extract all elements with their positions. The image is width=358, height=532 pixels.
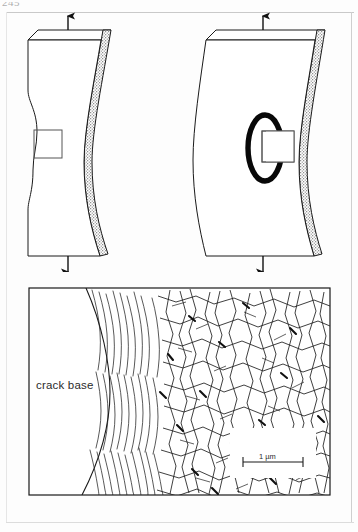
- figure-page: 245: [0, 0, 358, 532]
- specimen-right: [193, 16, 325, 272]
- specimen-left-top-face: [28, 30, 111, 40]
- scale-bar-label: 1 µm: [259, 452, 276, 461]
- specimen-right-front-face: [193, 40, 315, 256]
- panel-micrograph: [0, 272, 358, 522]
- page-rule-bottom: [6, 522, 354, 523]
- page-folio-number: 245: [2, 0, 20, 8]
- specimen-right-top-face: [206, 30, 325, 40]
- panel-specimens: [0, 10, 358, 272]
- inset-rect-over-ring-mask: [266, 131, 294, 162]
- specimen-left: [28, 16, 111, 272]
- crack-base-label: crack base: [36, 379, 94, 391]
